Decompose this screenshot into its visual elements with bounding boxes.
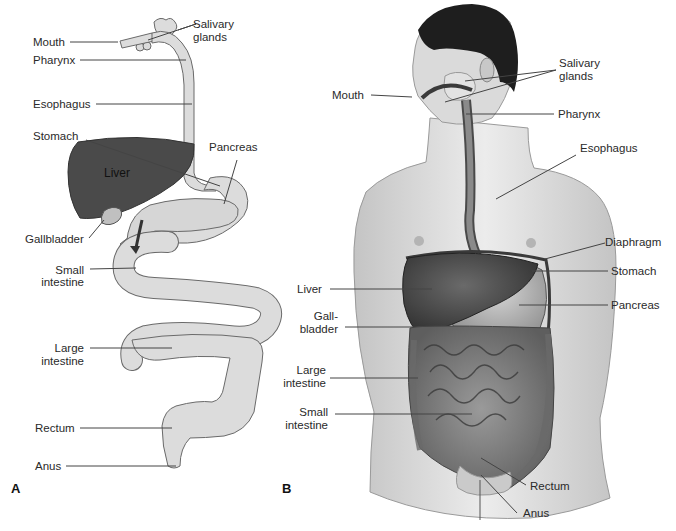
label-b-mouth: Mouth — [332, 89, 364, 102]
label-b-small-intestine: Small — [282, 406, 328, 419]
label-b-stomach: Stomach — [611, 265, 656, 278]
label-b-large-intestine: Large — [282, 364, 326, 377]
label-b-anus: Anus — [523, 507, 549, 520]
digestive-system-figure: Salivary glands Mouth Pharynx Esophagus … — [0, 0, 676, 531]
label-b-pancreas: Pancreas — [611, 299, 660, 312]
label-b-pharynx: Pharynx — [558, 108, 600, 121]
label-b-salivary-glands-line2: glands — [559, 70, 593, 83]
label-b-liver: Liver — [297, 283, 322, 296]
label-b-gallbladder-line2: bladder — [290, 323, 338, 336]
label-b-large-intestine-line2: intestine — [270, 377, 326, 390]
label-b-small-intestine-line2: intestine — [272, 419, 328, 432]
label-b-gallbladder: Gall- — [296, 310, 338, 323]
label-b-rectum: Rectum — [530, 480, 570, 493]
label-b-esophagus: Esophagus — [580, 142, 638, 155]
label-b-salivary-glands: Salivary — [559, 57, 600, 70]
panel-letter-b: B — [282, 481, 291, 496]
label-b-diaphragm: Diaphragm — [605, 236, 661, 249]
